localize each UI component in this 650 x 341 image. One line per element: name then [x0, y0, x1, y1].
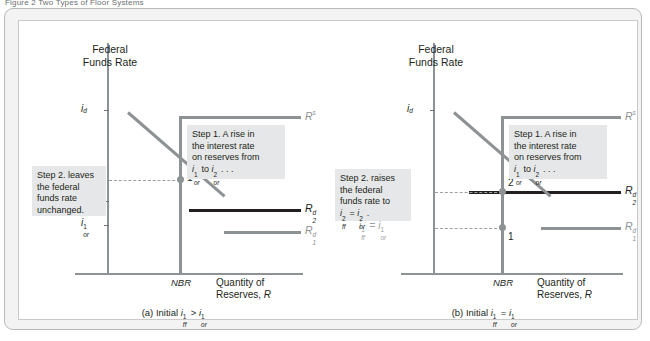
step1-callout-b: Step 1. A rise in the interest rate on r… [509, 125, 607, 179]
nbr-label-b: NBR [493, 277, 513, 288]
step1-line3-a: on reserves from [192, 152, 260, 162]
x-axis-b [401, 273, 623, 275]
caption-prefix-a: (a) Initial [142, 307, 178, 318]
figure-heading: Figure 2 Two Types of Floor Systems [5, 0, 144, 7]
chart-panel-a: Federal Funds Rate Quantity of Reserves,… [19, 21, 329, 321]
x-axis-label-a: Quantity of Reserves, R [216, 277, 271, 301]
step2-line3-b: funds rate to [340, 196, 390, 206]
figure-panel-area: Federal Funds Rate Quantity of Reserves,… [18, 20, 638, 320]
y-axis-title-line2-b: Funds Rate [409, 56, 463, 68]
curve-label-rs-a: Rs [305, 109, 316, 122]
step2-line1-b: Step 2. raises [340, 173, 395, 183]
y-tick-ior1-a [104, 225, 109, 226]
y-label-id-b: id [407, 103, 413, 114]
x-axis-label-line1-b: Quantity of [537, 277, 585, 288]
step2-line4-b: iff2 = ior2 . [340, 208, 369, 218]
step1-line1-a: Step 1. A rise in [192, 129, 255, 139]
demand-curve-1-flat-a [224, 231, 301, 234]
figure-root: Figure 2 Two Types of Floor Systems Fede… [0, 0, 650, 341]
caption-a: (a) Initial iff1 > ior1 [19, 307, 329, 318]
y-axis-a [107, 43, 109, 274]
step2-line2-b: the federal [340, 185, 383, 195]
x-axis-label-line2-b: Reserves, R [537, 289, 592, 300]
y-axis-title-line1-a: Federal [92, 43, 128, 55]
supply-curve-horizontal-b [501, 116, 621, 119]
x-axis-label-line1-a: Quantity of [216, 277, 264, 288]
step2-callout-b: Step 2. raises the federal funds rate to… [335, 169, 411, 221]
y-axis-title-line2-a: Funds Rate [83, 56, 137, 68]
step1-line3-b: on reserves from [514, 152, 582, 162]
curve-label-rd2-b: R2d [625, 184, 638, 196]
equilibrium-point-1-b [499, 224, 506, 231]
y-axis-title-a: Federal Funds Rate [67, 43, 153, 68]
caption-b: (b) Initial iff1 = ior1 [329, 307, 639, 318]
step1-line2-a: the interest rate [192, 141, 255, 151]
step2-callout-a: Step 2. leaves the federal funds rate un… [32, 166, 106, 216]
y-label-ior1-a: ior1 [81, 217, 89, 228]
equilibrium-label-1-b: 1 [508, 231, 514, 242]
x-axis-label-line2-a: Reserves, R [216, 289, 271, 300]
equilibrium-point-1-a [177, 176, 184, 183]
x-axis-label-b: Quantity of Reserves, R [537, 277, 592, 301]
curve-label-rd2-a: R2d [305, 202, 318, 214]
demand-curve-1-flat-b [541, 227, 621, 230]
chart-panel-b: Federal Funds Rate Quantity of Reserves,… [329, 21, 639, 321]
step1-line2-b: the interest rate [514, 141, 577, 151]
curve-label-rd1-a: R1d [305, 224, 318, 236]
step2-line2-a: the federal [37, 182, 80, 192]
step1-line4-a: ior1 to ior2 . . . [192, 164, 234, 174]
y-axis-title-line1-b: Federal [418, 43, 454, 55]
supply-curve-vertical-b [501, 116, 504, 274]
step1-line1-b: Step 1. A rise in [514, 129, 577, 139]
step2-line1-a: Step 2. leaves [37, 170, 94, 180]
equilibrium-point-2-b [499, 188, 506, 195]
caption-relation-a: > [191, 307, 197, 318]
dashed-guide-iff1-b [435, 228, 502, 229]
step1-callout-a: Step 1. A rise in the interest rate on r… [187, 125, 285, 179]
demand-curve-2-flat-a [189, 209, 301, 212]
dashed-guide-iff2-b [435, 192, 502, 193]
step1-line4-b: ior1 to ior2 . . . [514, 164, 556, 174]
curve-label-rs-b: Rs [625, 109, 636, 122]
figure-frame: Federal Funds Rate Quantity of Reserves,… [4, 8, 642, 330]
caption-relation-b: = [501, 307, 507, 318]
y-tick-id-b [430, 110, 435, 111]
step2-line4-a: unchanged. [37, 205, 84, 215]
step2-line3-a: funds rate [37, 193, 77, 203]
curve-label-rd1-b: R1d [625, 220, 638, 232]
supply-curve-vertical-a [179, 116, 182, 274]
dashed-guide-iff1-a [109, 180, 180, 181]
x-axis-a [75, 273, 303, 275]
nbr-label-a: NBR [171, 277, 191, 288]
caption-prefix-b: (b) Initial [452, 307, 488, 318]
y-tick-id-a [104, 110, 109, 111]
y-label-id-a: id [81, 103, 87, 114]
supply-curve-horizontal-a [179, 116, 301, 119]
y-axis-title-b: Federal Funds Rate [393, 43, 479, 68]
y-axis-b [433, 43, 435, 274]
